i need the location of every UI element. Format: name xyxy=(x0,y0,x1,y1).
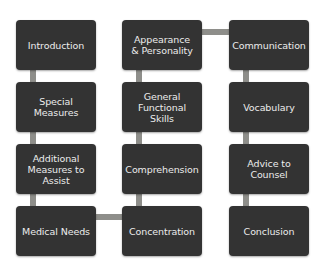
node-medical-needs: Medical Needs xyxy=(16,206,96,256)
process-flow-diagram: Introduction Special Measures Additional… xyxy=(0,0,323,272)
node-vocabulary: Vocabulary xyxy=(229,82,309,132)
connector-appearance-communication xyxy=(201,29,231,35)
connector-medical-needs-concentration xyxy=(95,214,125,220)
node-communication: Communication xyxy=(229,20,309,70)
connector-vocabulary-advice xyxy=(243,130,249,145)
node-conclusion: Conclusion xyxy=(229,206,309,256)
node-comprehension: Comprehension xyxy=(122,144,202,194)
connector-general-functional-comprehension xyxy=(136,130,142,145)
node-label: Vocabulary xyxy=(243,102,295,113)
node-advice-to-counsel: Advice to Counsel xyxy=(229,144,309,194)
node-additional-measures: Additional Measures to Assist xyxy=(16,144,96,194)
node-label: Introduction xyxy=(28,40,84,51)
connector-special-measures-additional-measures xyxy=(30,130,36,145)
node-label: Concentration xyxy=(129,226,195,237)
node-general-functional-skills: General Functional Skills xyxy=(122,82,202,132)
node-label: Appearance & Personality xyxy=(130,34,194,56)
node-appearance-personality: Appearance & Personality xyxy=(122,20,202,70)
node-introduction: Introduction xyxy=(16,20,96,70)
node-concentration: Concentration xyxy=(122,206,202,256)
node-label: Advice to Counsel xyxy=(243,158,295,180)
node-label: General Functional Skills xyxy=(128,91,196,124)
node-label: Conclusion xyxy=(244,226,295,237)
node-label: Comprehension xyxy=(125,164,198,175)
node-label: Special Measures xyxy=(30,96,82,118)
node-label: Additional Measures to Assist xyxy=(24,153,88,186)
node-special-measures: Special Measures xyxy=(16,82,96,132)
node-label: Communication xyxy=(232,40,306,51)
node-label: Medical Needs xyxy=(22,226,90,237)
